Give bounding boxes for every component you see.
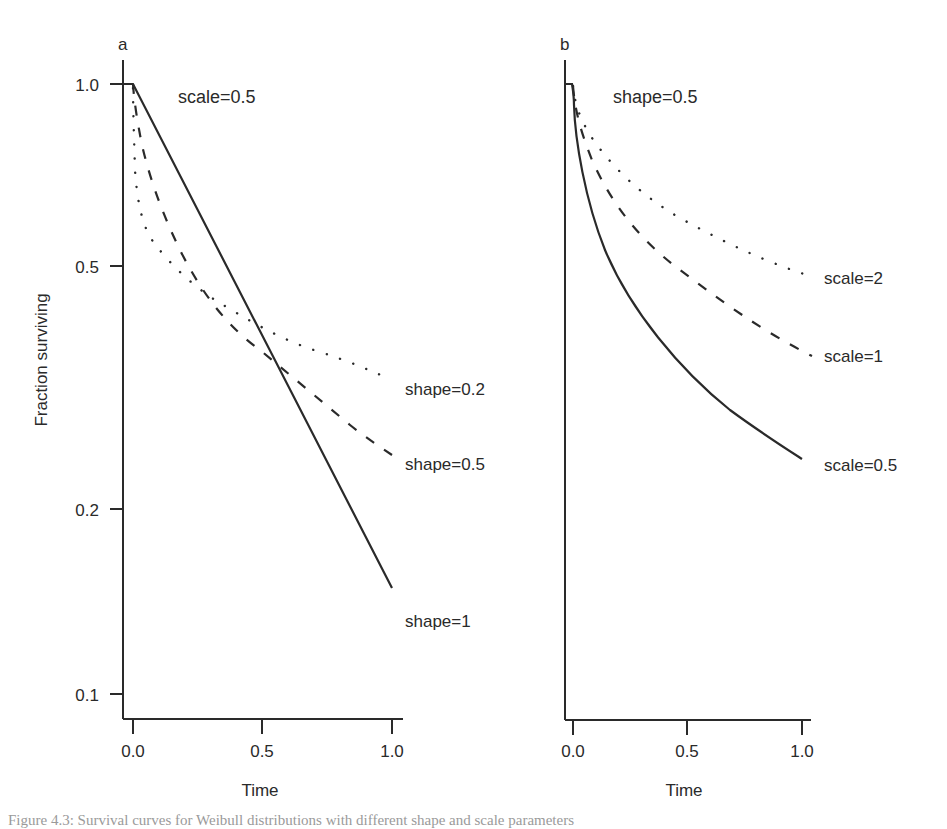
curve-shape-1 xyxy=(123,84,392,588)
x-tick-label: 0.0 xyxy=(561,742,585,761)
y-tick-label: 1.0 xyxy=(75,76,99,95)
curve-shape-0.2 xyxy=(123,84,392,380)
panel-a: a 1.0 0.5 0.2 0.1 0.0 0.5 1.0 Time Fract… xyxy=(32,35,485,800)
y-axis-label: Fraction surviving xyxy=(32,293,51,426)
panel-a-y-ticks: 1.0 0.5 0.2 0.1 xyxy=(75,76,123,705)
x-tick-label: 0.5 xyxy=(675,742,699,761)
x-tick-label: 1.0 xyxy=(790,742,814,761)
curve-label-shape-0.2: shape=0.2 xyxy=(405,380,485,399)
curve-label-shape-0.5: shape=0.5 xyxy=(405,455,485,474)
panel-b-x-ticks: 0.0 0.5 1.0 xyxy=(561,720,814,761)
x-tick-label: 0.0 xyxy=(121,742,145,761)
x-tick-label: 1.0 xyxy=(380,742,404,761)
curve-label-scale-0.5: scale=0.5 xyxy=(824,456,897,475)
panel-b-x-label: Time xyxy=(665,781,702,800)
panel-a-letter: a xyxy=(118,35,128,54)
curve-scale-2 xyxy=(573,86,810,276)
x-tick-label: 0.5 xyxy=(250,742,274,761)
curve-scale-1 xyxy=(573,86,812,356)
curve-label-scale-2: scale=2 xyxy=(824,269,883,288)
panel-a-x-label: Time xyxy=(241,781,278,800)
panel-a-x-ticks: 0.0 0.5 1.0 xyxy=(121,719,404,761)
figure-caption: Figure 4.3: Survival curves for Weibull … xyxy=(8,812,574,829)
curve-shape-0.5 xyxy=(133,84,392,455)
curve-label-shape-1: shape=1 xyxy=(405,612,471,631)
curve-label-scale-1: scale=1 xyxy=(824,347,883,366)
y-tick-label: 0.1 xyxy=(75,686,99,705)
y-tick-label: 0.2 xyxy=(75,501,99,520)
panel-a-param-label: scale=0.5 xyxy=(178,87,256,107)
y-tick-label: 0.5 xyxy=(75,258,99,277)
panel-b-letter: b xyxy=(560,35,569,54)
panel-b-param-label: shape=0.5 xyxy=(613,87,698,107)
panel-b: b 0.0 0.5 1.0 Time shape=0.5 scale=2 sca… xyxy=(560,35,897,800)
